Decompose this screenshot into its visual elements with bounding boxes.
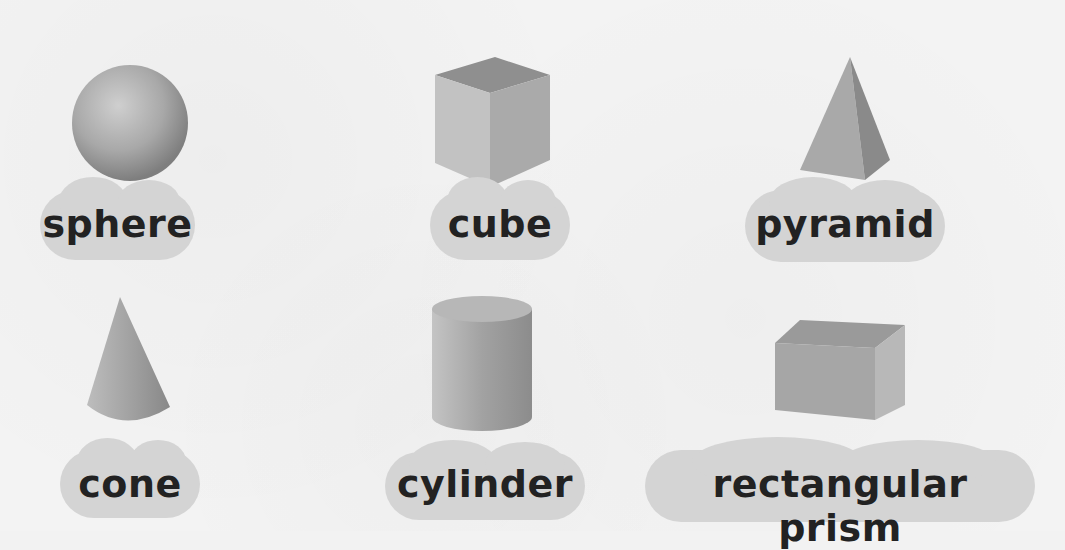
cylinder-shape (430, 295, 535, 435)
cone-label: cone (60, 462, 200, 506)
cylinder-label-cloud: cylinder (385, 452, 585, 520)
pyramid-label-cloud: pyramid (745, 190, 945, 262)
sphere-label-cloud: sphere (40, 190, 195, 260)
cone-shape (85, 295, 175, 430)
shape-card-cube: cube (410, 40, 610, 270)
cylinder-label: cylinder (385, 462, 585, 506)
cube-label-cloud: cube (430, 190, 570, 260)
shape-card-rectangular-prism: rectangular prism (640, 310, 1060, 525)
cube-shape (425, 45, 555, 190)
pyramid-label: pyramid (745, 202, 945, 246)
shape-card-cone: cone (50, 290, 250, 520)
shape-card-pyramid: pyramid (730, 50, 960, 270)
pyramid-shape (795, 55, 895, 185)
sphere-label: sphere (40, 202, 195, 246)
rectangular-prism-shape (770, 315, 910, 425)
shape-card-sphere: sphere (40, 50, 240, 270)
cube-label: cube (430, 202, 570, 246)
shape-card-cylinder: cylinder (380, 290, 600, 520)
cone-label-cloud: cone (60, 450, 200, 518)
sphere-shape (70, 63, 190, 183)
rectangular-prism-label-cloud: rectangular prism (645, 450, 1035, 522)
rectangular-prism-label: rectangular prism (645, 462, 1035, 550)
